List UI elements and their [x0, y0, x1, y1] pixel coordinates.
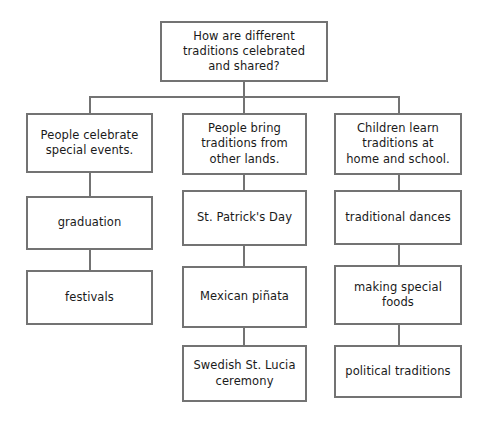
connector-bar-to-branch-2	[243, 96, 245, 113]
connector-bar-to-branch-1	[89, 96, 91, 113]
connector-branch-2-item-1-to-item-2	[243, 246, 245, 266]
node-branch-2-item-3: Swedish St. Lucia ceremony	[182, 345, 307, 402]
node-branch-3-heading-label: Children learn traditions at home and sc…	[346, 121, 450, 167]
node-branch-2-item-3-label: Swedish St. Lucia ceremony	[193, 358, 295, 388]
node-branch-3-item-1-label: traditional dances	[345, 210, 451, 225]
node-branch-2-heading-label: People bring traditions from other lands…	[201, 121, 288, 167]
node-branch-2-item-2: Mexican piñata	[182, 266, 307, 328]
node-branch-1-heading-label: People celebrate special events.	[41, 128, 139, 158]
flowchart-canvas: How are different traditions celebrated …	[0, 0, 487, 429]
node-root-question-label: How are different traditions celebrated …	[183, 29, 305, 75]
connector-branch-3-item-1-to-item-2	[398, 245, 400, 265]
node-branch-1-item-2-label: festivals	[65, 290, 114, 305]
node-branch-2-item-1-label: St. Patrick's Day	[197, 210, 292, 225]
connector-branch-3-item-2-to-item-3	[398, 325, 400, 345]
connector-branch-2-item-2-to-item-3	[243, 328, 245, 345]
node-root-question: How are different traditions celebrated …	[160, 21, 328, 82]
node-branch-1-item-2: festivals	[26, 270, 153, 325]
connector-bar-to-branch-3	[398, 96, 400, 113]
node-branch-2-item-1: St. Patrick's Day	[182, 190, 307, 246]
node-branch-3-heading: Children learn traditions at home and sc…	[334, 113, 462, 175]
node-branch-1-item-1: graduation	[26, 196, 153, 250]
node-branch-3-item-2-label: making special foods	[354, 280, 442, 310]
connector-branch-2-heading-to-item-1	[243, 175, 245, 190]
connector-branch-3-heading-to-item-1	[398, 175, 400, 190]
node-branch-2-item-2-label: Mexican piñata	[200, 289, 289, 304]
node-branch-3-item-3: political traditions	[334, 345, 462, 398]
node-branch-3-item-3-label: political traditions	[345, 364, 450, 379]
node-branch-3-item-1: traditional dances	[334, 190, 462, 245]
node-branch-1-item-1-label: graduation	[58, 215, 122, 230]
connector-branch-1-heading-to-item-1	[89, 173, 91, 196]
node-branch-1-heading: People celebrate special events.	[26, 113, 153, 173]
node-branch-2-heading: People bring traditions from other lands…	[182, 113, 307, 175]
connector-branch-1-item-1-to-item-2	[89, 250, 91, 270]
node-branch-3-item-2: making special foods	[334, 265, 462, 325]
